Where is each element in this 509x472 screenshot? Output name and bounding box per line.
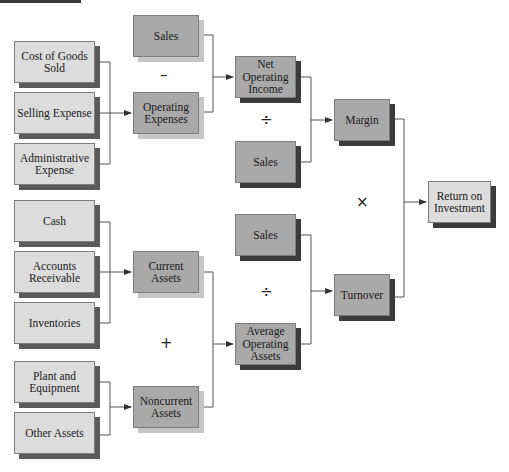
operator-divide-turnover: ÷ xyxy=(260,283,273,301)
box-inventories: Inventories xyxy=(14,302,95,344)
box-sales-top: Sales xyxy=(133,15,199,57)
box-label: Noncurrent Assets xyxy=(134,395,198,420)
box-label: Administrative Expense xyxy=(15,152,94,177)
box-noncurrent-assets: Noncurrent Assets xyxy=(133,386,199,428)
box-administrative-expense: Administrative Expense xyxy=(14,143,95,185)
box-label: Margin xyxy=(345,114,379,127)
box-sales-turnover: Sales xyxy=(235,214,296,256)
box-operating-expenses: Operating Expenses xyxy=(133,92,199,134)
box-return-on-investment: Return on Investment xyxy=(428,181,491,223)
box-label: Plant and Equipment xyxy=(15,370,94,395)
box-label: Cash xyxy=(43,215,66,228)
box-plant-and-equipment: Plant and Equipment xyxy=(14,361,95,403)
box-selling-expense: Selling Expense xyxy=(14,92,95,134)
box-label: Cost of Goods Sold xyxy=(15,50,94,75)
operator-plus: + xyxy=(160,334,173,352)
box-label: Sales xyxy=(253,156,277,169)
operator-minus: – xyxy=(160,66,168,84)
box-other-assets: Other Assets xyxy=(14,412,95,454)
box-label: Net Operating Income xyxy=(236,58,295,96)
box-label: Return on Investment xyxy=(429,190,490,215)
box-net-operating-income: Net Operating Income xyxy=(235,56,296,98)
box-turnover: Turnover xyxy=(334,274,390,316)
box-cost-of-goods-sold: Cost of Goods Sold xyxy=(14,41,95,83)
operator-divide-margin: ÷ xyxy=(260,111,273,129)
box-label: Sales xyxy=(154,30,178,43)
box-label: Turnover xyxy=(341,289,383,302)
box-accounts-receivable: Accounts Receivable xyxy=(14,251,95,293)
box-margin: Margin xyxy=(334,99,390,141)
box-label: Selling Expense xyxy=(17,107,91,120)
box-label: Inventories xyxy=(29,317,81,330)
box-average-operating-assets: Average Operating Assets xyxy=(235,323,296,365)
box-label: Accounts Receivable xyxy=(15,260,94,285)
box-label: Average Operating Assets xyxy=(236,325,295,363)
box-label: Sales xyxy=(253,229,277,242)
box-label: Other Assets xyxy=(25,427,83,440)
box-label: Operating Expenses xyxy=(134,101,198,126)
operator-times: × xyxy=(356,193,369,211)
box-sales-margin: Sales xyxy=(235,141,296,183)
box-current-assets: Current Assets xyxy=(133,251,199,293)
box-cash: Cash xyxy=(14,200,95,242)
box-label: Current Assets xyxy=(134,260,198,285)
